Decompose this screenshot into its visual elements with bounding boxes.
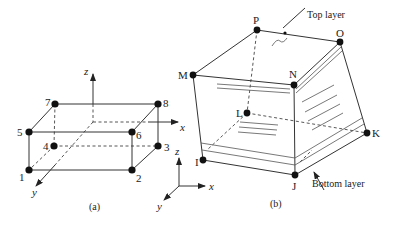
node-7 — [51, 100, 58, 107]
hidden-edge — [29, 146, 54, 170]
layer-hatch — [239, 127, 277, 130]
bottom-layer-label: Bottom layer — [312, 178, 365, 189]
node-label-6: 6 — [136, 129, 142, 141]
node-P — [254, 27, 261, 34]
layer-hatch — [217, 84, 290, 89]
node-label-L: L — [236, 107, 243, 119]
z-axis-label: z — [83, 65, 89, 77]
top-face — [29, 104, 158, 132]
node-label-P: P — [253, 14, 259, 26]
y-axis-label: y — [31, 186, 37, 198]
y-axis-hidden — [55, 122, 93, 165]
node-5 — [25, 128, 32, 135]
edge-IJ — [203, 160, 295, 175]
node-label-K: K — [372, 127, 380, 139]
top-layer-line — [296, 51, 342, 93]
global-x-label: x — [208, 180, 214, 192]
node-4 — [50, 142, 57, 149]
layer-hatch — [240, 122, 278, 125]
bottom-layer-line — [295, 118, 362, 158]
top-layer-line — [296, 47, 341, 89]
top-layer-label: Top layer — [307, 9, 346, 20]
hidden-edge-PL — [247, 30, 257, 113]
node-3 — [154, 142, 161, 149]
node-N — [291, 82, 298, 89]
layer-hatch — [238, 132, 276, 135]
top-layer-pointer-dot — [283, 31, 286, 34]
hidden-edge-LK — [247, 113, 367, 133]
bottom-layer-line — [202, 150, 295, 165]
bottom-layer-line — [295, 124, 364, 165]
hidden-edge — [54, 104, 55, 146]
node-label-3: 3 — [164, 141, 170, 153]
node-L — [244, 110, 251, 117]
global-y-arrow — [164, 186, 179, 200]
bottom-layer-line — [201, 143, 295, 158]
node-label-4: 4 — [43, 140, 49, 152]
y-axis-arrow — [36, 165, 55, 186]
node-6 — [128, 128, 135, 135]
layer-hatch — [312, 113, 343, 130]
node-1 — [25, 166, 32, 173]
figure-canvas: z x y 1 2 3 4 5 6 7 8 (a) z x y — [0, 0, 393, 230]
caption-a: (a) — [89, 201, 100, 213]
caption-b: (b) — [270, 198, 282, 210]
node-2 — [128, 166, 135, 173]
node-K — [364, 130, 371, 137]
layer-hatch — [217, 88, 290, 93]
node-I — [200, 157, 207, 164]
node-label-5: 5 — [17, 126, 23, 138]
edge-MI — [193, 75, 203, 160]
node-label-8: 8 — [163, 97, 169, 109]
edge-OK — [340, 42, 367, 133]
edge-MN — [193, 75, 294, 85]
node-M — [190, 72, 197, 79]
layer-hatch — [308, 104, 340, 121]
x-axis-label: x — [179, 121, 185, 133]
node-label-2: 2 — [136, 172, 142, 184]
node-label-O: O — [336, 27, 344, 39]
node-J — [292, 172, 299, 179]
node-label-J: J — [292, 180, 297, 192]
node-label-M: M — [178, 69, 188, 81]
global-y-label: y — [156, 200, 162, 212]
top-layer-pointer — [283, 8, 305, 28]
node-label-7: 7 — [45, 96, 51, 108]
global-z-label: z — [174, 145, 180, 157]
node-label-I: I — [195, 156, 199, 168]
global-axes-triad: z x y — [156, 145, 214, 212]
node-8 — [154, 100, 161, 107]
node-O — [337, 39, 344, 46]
edge-JK — [295, 133, 367, 175]
edge-NJ — [294, 85, 295, 175]
edge-NO — [294, 42, 340, 85]
figure-a-brick-element: z x y 1 2 3 4 5 6 7 8 (a) — [17, 65, 185, 213]
top-layer-symbol — [272, 38, 287, 46]
node-label-1: 1 — [19, 171, 25, 183]
node-label-N: N — [289, 68, 297, 80]
